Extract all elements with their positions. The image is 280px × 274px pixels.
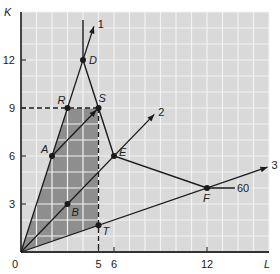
point-d: [80, 57, 86, 63]
point-label: D: [89, 54, 97, 66]
x-tick-label: 6: [111, 258, 117, 270]
point-label: E: [119, 146, 127, 158]
ray-label: 1: [98, 18, 104, 30]
ray-label: 2: [158, 106, 164, 118]
y-tick-label: 12: [3, 54, 15, 66]
point-s: [96, 105, 102, 111]
isoquant-diagram: 123 DRSAEBFT 561236912 K L 0 60: [0, 0, 280, 274]
point-f: [204, 185, 210, 191]
point-b: [65, 201, 71, 207]
x-tick-label: 5: [95, 258, 101, 270]
y-tick-label: 9: [9, 102, 15, 114]
point-e: [111, 153, 117, 159]
y-tick-label: 3: [9, 198, 15, 210]
point-t: [96, 222, 102, 228]
point-a: [49, 153, 55, 159]
ray-label: 3: [271, 159, 277, 171]
origin-label: 0: [12, 258, 18, 270]
y-axis-label: K: [4, 6, 12, 18]
y-tick-label: 6: [9, 150, 15, 162]
point-label: A: [40, 143, 48, 155]
point-label: S: [99, 92, 107, 104]
x-tick-label: 12: [201, 258, 213, 270]
isoquant-label: 60: [237, 182, 249, 194]
point-label: B: [72, 206, 79, 218]
x-axis-label: L: [264, 258, 270, 270]
point-label: R: [58, 94, 66, 106]
